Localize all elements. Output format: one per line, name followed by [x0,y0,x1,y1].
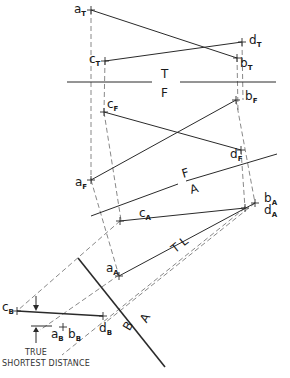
caption: TRUE SHORTEST DISTANCE [2,348,90,368]
projector-b-tf [237,57,238,110]
true-length-label: T L [167,234,191,257]
plane-labels: T F F A A B T L [120,67,201,333]
shortest-distance-diagram: aT bT cT dT aF bF cF dF aA bA cA dA cB d… [0,0,290,378]
plane-label-a-aux: A [188,181,201,197]
label-dT: dT [249,33,262,49]
plane-label-t: T [160,67,169,81]
tick-aF [87,176,95,184]
label-aA: aA [106,261,119,277]
label-cF: cF [107,97,119,113]
fold-line-fa-left [91,184,178,216]
plane-label-f-aux: F [180,165,191,180]
arrow-up-icon [33,327,39,332]
line-ab-top [91,10,237,58]
tick-dB [99,312,107,320]
tick-bA [251,199,259,207]
tick-cT [101,57,109,65]
point-labels: aT bT cT dT aF bF cF dF aA bA cA dA cB d… [2,2,278,343]
descriptive-geometry-drawing: aT bT cT dT aF bF cF dF aA bA cA dA cB d… [0,0,290,378]
plane-label-f: F [161,86,168,100]
label-aT: aT [74,2,86,18]
label-aF: aF [75,175,87,191]
tick-dT [238,38,246,46]
projection-lines [17,10,255,355]
projector-d-ab [62,208,245,355]
shortest-distance-dimension [31,296,52,343]
label-cB: cB [2,300,14,316]
arrow-down-icon [33,305,39,311]
label-cT: cT [89,52,101,68]
caption-line-2: SHORTEST DISTANCE [2,359,90,368]
projector-d-tf [242,42,243,100]
projector-c-fa [104,112,121,220]
tick-aT [87,6,95,14]
point-ticks [13,6,259,331]
tick-dA [241,204,249,212]
projector-b-ab [106,203,255,322]
label-bT: bT [240,56,253,72]
object-lines [17,10,255,316]
label-cA: cA [139,206,152,222]
tick-bF [232,96,240,104]
label-bF: bF [245,89,258,105]
label-bB: bB [68,327,81,343]
tick-dF [237,146,245,154]
projector-a-fa [91,180,119,276]
projector-a-ab [40,275,119,330]
tick-aB-bB [59,323,67,331]
projector-b-fa [236,100,255,203]
line-cd-point-view-b [17,311,103,316]
plane-label-a-b: A [137,310,154,325]
line-cd-front [104,112,241,150]
caption-line-1: TRUE [24,348,47,357]
label-dB: dB [99,321,112,337]
line-cd-top [105,42,242,61]
label-aB: aB [51,327,64,343]
projector-c-tf [104,60,105,112]
projector-c-ab [17,221,120,311]
